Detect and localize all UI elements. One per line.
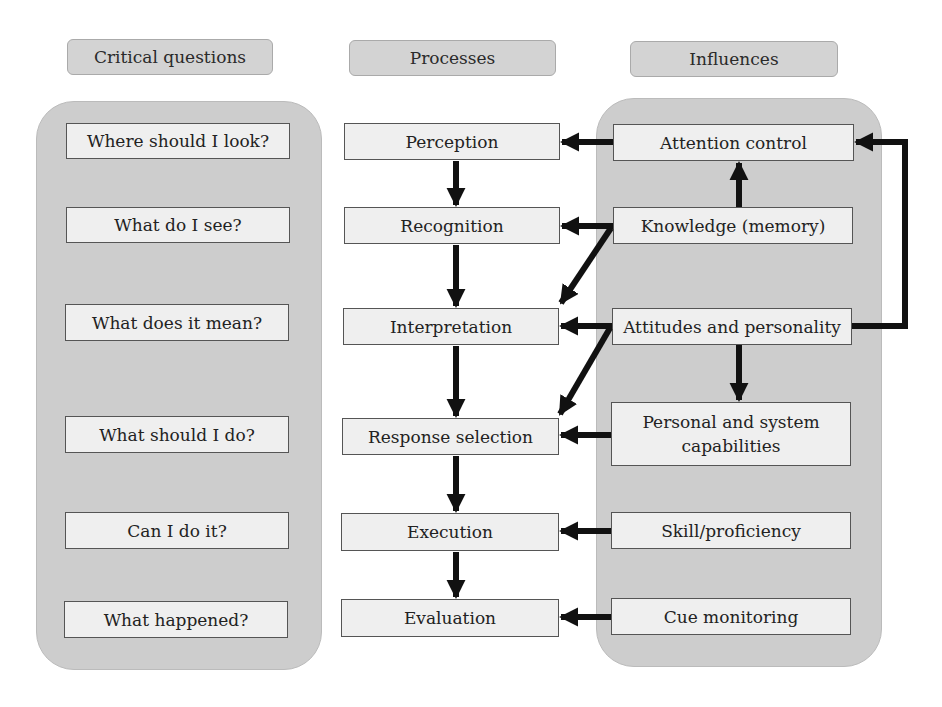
header-influences: Influences [630,41,838,77]
question-can-i-do-it: Can I do it? [65,512,289,549]
process-interpretation: Interpretation [343,308,559,345]
process-response-selection: Response selection [342,418,559,455]
influence-cue-monitoring: Cue monitoring [611,598,851,635]
influence-skill-proficiency: Skill/proficiency [611,512,851,549]
header-processes: Processes [349,40,556,76]
process-recognition: Recognition [344,207,560,244]
process-perception: Perception [344,123,560,160]
critical-questions-panel [36,101,322,670]
influence-attention-control: Attention control [613,124,854,161]
header-critical-questions: Critical questions [67,39,273,75]
influence-knowledge-memory: Knowledge (memory) [613,207,853,244]
influences-panel [596,98,882,667]
process-evaluation: Evaluation [341,599,559,637]
influence-attitudes-personality: Attitudes and personality [612,308,852,345]
question-what-do-i-see: What do I see? [66,207,290,243]
question-what-should-i-do: What should I do? [65,416,289,453]
process-execution: Execution [341,513,559,551]
question-what-happened: What happened? [64,601,288,638]
influence-personal-system-capabilities: Personal and system capabilities [611,402,851,466]
question-what-does-it-mean: What does it mean? [65,304,289,341]
question-where-should-i-look: Where should I look? [66,123,290,159]
